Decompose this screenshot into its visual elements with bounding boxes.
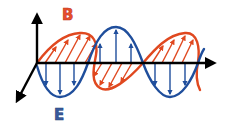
depth-axis <box>18 63 37 99</box>
magnetic-field-wave <box>37 33 200 90</box>
electric-field-label: E <box>54 108 64 123</box>
em-wave-diagram: B E <box>0 0 231 129</box>
magnetic-field-label: B <box>62 8 73 23</box>
